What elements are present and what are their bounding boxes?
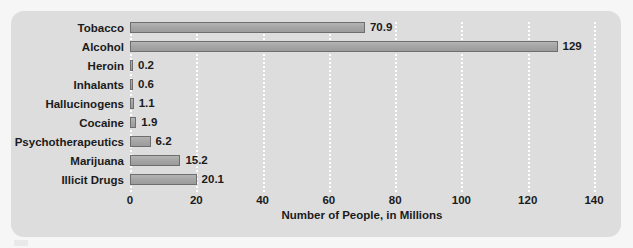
bar-row: Inhalants0.6: [0, 79, 633, 98]
category-label-illicit-drugs: Illicit Drugs: [4, 174, 124, 187]
bar-row: Cocaine1.9: [0, 117, 633, 136]
bar-heroin: [130, 60, 133, 71]
x-tick-label-20: 20: [176, 194, 216, 206]
value-label-alcohol: 129: [563, 40, 582, 52]
bar-psychotherapeutics: [130, 136, 151, 147]
category-label-marijuana: Marijuana: [4, 155, 124, 168]
x-tick-label-80: 80: [375, 194, 415, 206]
value-label-hallucinogens: 1.1: [139, 97, 155, 109]
x-axis-title: Number of People, in Millions: [130, 209, 594, 221]
x-tick-label-140: 140: [574, 194, 614, 206]
category-label-psychotherapeutics: Psychotherapeutics: [4, 136, 124, 149]
category-label-tobacco: Tobacco: [4, 22, 124, 35]
x-tick-label-60: 60: [309, 194, 349, 206]
category-label-cocaine: Cocaine: [4, 117, 124, 130]
bar-row: Hallucinogens1.1: [0, 98, 633, 117]
x-tick-label-100: 100: [441, 194, 481, 206]
value-label-heroin: 0.2: [138, 59, 154, 71]
category-label-inhalants: Inhalants: [4, 79, 124, 92]
bar-row: Illicit Drugs20.1: [0, 174, 633, 193]
value-label-cocaine: 1.9: [141, 116, 157, 128]
value-label-marijuana: 15.2: [185, 154, 207, 166]
value-label-psychotherapeutics: 6.2: [156, 135, 172, 147]
page-corner-mark: [14, 240, 28, 246]
bar-row: Alcohol129: [0, 41, 633, 60]
bar-row: Tobacco70.9: [0, 22, 633, 41]
bar-row: Heroin0.2: [0, 60, 633, 79]
x-tick-label-0: 0: [110, 194, 150, 206]
bar-inhalants: [130, 79, 133, 90]
bar-alcohol: [130, 41, 558, 52]
bar-chart-figure: Tobacco70.9Alcohol129Heroin0.2Inhalants0…: [0, 0, 633, 248]
bar-row: Marijuana15.2: [0, 155, 633, 174]
bar-tobacco: [130, 22, 365, 33]
bar-cocaine: [130, 117, 136, 128]
category-label-hallucinogens: Hallucinogens: [4, 98, 124, 111]
bar-illicit-drugs: [130, 174, 197, 185]
x-tick-label-120: 120: [508, 194, 548, 206]
category-label-heroin: Heroin: [4, 60, 124, 73]
x-tick-label-40: 40: [243, 194, 283, 206]
bar-marijuana: [130, 155, 180, 166]
value-label-tobacco: 70.9: [370, 21, 392, 33]
value-label-illicit-drugs: 20.1: [202, 173, 224, 185]
category-label-alcohol: Alcohol: [4, 41, 124, 54]
value-label-inhalants: 0.6: [138, 78, 154, 90]
bar-hallucinogens: [130, 98, 134, 109]
bar-row: Psychotherapeutics6.2: [0, 136, 633, 155]
